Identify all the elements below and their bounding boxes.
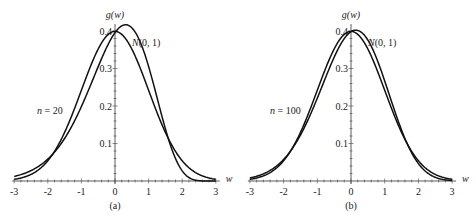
- x-axis-label: w: [226, 173, 233, 184]
- x-tick-label: -3: [246, 186, 254, 197]
- y-tick-label: 0.4: [336, 26, 349, 37]
- series-label-n: n = 100: [270, 105, 301, 116]
- y-tick-label: 0.1: [100, 138, 113, 149]
- x-tick-label: -2: [279, 186, 287, 197]
- x-tick-label: 3: [450, 186, 455, 197]
- y-tick-label: 0.2: [336, 101, 349, 112]
- panel-label: (a): [109, 200, 120, 212]
- y-tick-label: 0.3: [336, 63, 349, 74]
- x-tick-label: 0: [113, 186, 118, 197]
- x-tick-label: -2: [44, 186, 52, 197]
- x-tick-label: -3: [10, 186, 18, 197]
- series-label-n: n = 20: [37, 105, 63, 116]
- y-axis-label: g(w): [342, 9, 361, 21]
- y-tick-label: 0.1: [336, 138, 349, 149]
- x-tick-label: 2: [180, 186, 185, 197]
- series-label-normal: N(0, 1): [131, 37, 160, 49]
- x-tick-label: 1: [146, 186, 151, 197]
- y-tick-label: 0.4: [100, 26, 113, 37]
- chart-panel-b: -3-2-101230.10.20.30.4g(w)w(b)N(0, 1)n =…: [246, 9, 469, 212]
- figure: -3-2-101230.10.20.30.4g(w)w(a)N(0, 1)n =…: [0, 0, 476, 223]
- y-tick-label: 0.2: [100, 101, 113, 112]
- series-label-normal: N(0, 1): [367, 37, 396, 49]
- chart-panel-a: -3-2-101230.10.20.30.4g(w)w(a)N(0, 1)n =…: [10, 9, 233, 212]
- y-tick-label: 0.3: [100, 63, 113, 74]
- x-tick-label: -1: [77, 186, 85, 197]
- x-tick-label: 3: [213, 186, 218, 197]
- x-tick-label: -1: [313, 186, 321, 197]
- x-axis-label: w: [462, 173, 469, 184]
- x-tick-label: 1: [382, 186, 387, 197]
- x-tick-label: 2: [416, 186, 421, 197]
- x-tick-label: 0: [349, 186, 354, 197]
- y-axis-label: g(w): [106, 9, 125, 21]
- panel-label: (b): [345, 200, 357, 212]
